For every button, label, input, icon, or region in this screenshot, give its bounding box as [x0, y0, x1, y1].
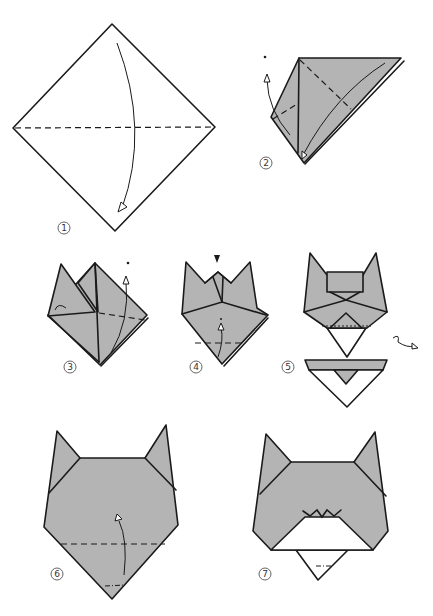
step-number: 6 [54, 569, 60, 579]
push-arrow-icon [214, 255, 220, 263]
step-7: 7 [253, 432, 388, 580]
turn-over-arrow [393, 336, 414, 346]
flap-detail [305, 360, 387, 370]
step-number: 3 [67, 362, 73, 372]
step-number: 2 [263, 158, 269, 168]
step-number: 4 [193, 362, 199, 372]
chin-triangle [296, 550, 348, 580]
step-2: 2 [260, 56, 404, 169]
dot-marker [127, 262, 130, 265]
dot-marker [264, 56, 267, 59]
squash-right-edge [222, 277, 223, 302]
arrow-head-icon [264, 74, 270, 82]
forehead-flap [327, 272, 363, 292]
step-number: 7 [262, 569, 268, 579]
step-5: 5 [282, 253, 418, 407]
step-number: 5 [285, 362, 291, 372]
center-crease [298, 58, 299, 153]
dot-marker [220, 318, 222, 320]
folded-triangle [271, 58, 401, 163]
origami-diagram: 1 2 3 [0, 0, 433, 616]
step-4: 4 [182, 255, 268, 373]
step-1: 1 [13, 24, 215, 234]
square-paper [13, 24, 215, 231]
arrow-head-icon [123, 276, 129, 284]
white-tip [327, 328, 366, 357]
arrow-head-icon [412, 343, 418, 349]
step-number: 1 [61, 223, 67, 233]
step-6: 6 [44, 425, 178, 599]
step-3: 3 [48, 262, 148, 373]
cat-head [44, 425, 178, 599]
